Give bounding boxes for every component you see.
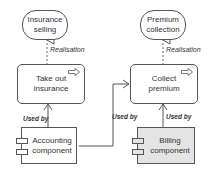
- take-out-insurance-label-1: Take out: [34, 74, 69, 84]
- component-plug-icon-top: [132, 138, 144, 144]
- used-by-label-accounting-takeout: Used by: [23, 115, 48, 122]
- accounting-component[interactable]: Accounting component: [21, 127, 77, 164]
- process-arrow-icon: [181, 68, 193, 76]
- billing-component-label-1: Billing: [150, 136, 190, 146]
- used-by-label-billing-collect: Used by: [166, 113, 191, 120]
- used-by-label-accounting-collect: Used by: [112, 113, 137, 120]
- insurance-selling-label-2: selling: [27, 25, 62, 35]
- take-out-insurance-label-2: insurance: [34, 84, 69, 94]
- realisation-label-right: Realisation: [166, 46, 201, 53]
- process-arrow-icon: [68, 68, 80, 76]
- billing-component[interactable]: Billing component: [137, 127, 195, 164]
- insurance-selling-service[interactable]: Insurance selling: [22, 10, 68, 40]
- take-out-insurance-process[interactable]: Take out insurance: [17, 64, 85, 104]
- accounting-component-label-1: Accounting: [32, 136, 72, 146]
- component-plug-icon-bottom: [132, 149, 144, 155]
- premium-collection-label-1: Premium: [146, 15, 179, 25]
- billing-component-label-2: component: [150, 146, 190, 156]
- component-plug-icon-top: [16, 138, 28, 144]
- premium-collection-label-2: collection: [146, 25, 179, 35]
- component-plug-icon-bottom: [16, 149, 28, 155]
- collect-premium-process[interactable]: Collect premium: [130, 64, 198, 104]
- accounting-component-label-2: component: [32, 146, 72, 156]
- collect-premium-label-2: premium: [148, 84, 179, 94]
- realisation-label-left: Realisation: [50, 46, 85, 53]
- premium-collection-service[interactable]: Premium collection: [140, 10, 186, 40]
- collect-premium-label-1: Collect: [148, 74, 179, 84]
- insurance-selling-label-1: Insurance: [27, 15, 62, 25]
